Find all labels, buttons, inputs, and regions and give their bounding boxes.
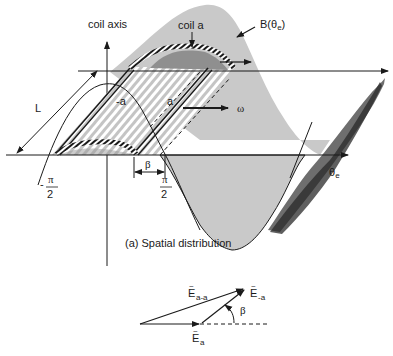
svg-text:-a: -a	[258, 293, 266, 302]
beta-arc	[225, 305, 234, 323]
svg-text:2: 2	[47, 188, 53, 200]
theta-axis-label: θe	[329, 166, 340, 180]
omega-label: ω	[237, 102, 244, 114]
coil-a-label: coil a	[178, 19, 205, 31]
side-neg-a-label: -a	[116, 95, 127, 107]
flux-density-label: B(θe)	[260, 18, 285, 32]
neg-pi-over-2-label: - π 2	[40, 173, 58, 200]
svg-text:E: E	[192, 332, 199, 344]
e-a-label: ~ E a	[192, 327, 205, 347]
side-a-label: a	[167, 95, 174, 107]
length-label: L	[35, 102, 41, 114]
caption: (a) Spatial distribution	[125, 237, 231, 249]
coil-axis-label: coil axis	[88, 18, 128, 30]
spatial-distribution-diagram: coil axis coil a B(θe) L -a a ω β θe - π…	[0, 0, 393, 356]
beta-label: β	[145, 158, 151, 170]
svg-text:E: E	[250, 287, 257, 299]
svg-text:a: a	[200, 338, 205, 347]
svg-text:2: 2	[161, 188, 167, 200]
phasor-beta-label: β	[240, 304, 246, 316]
svg-text:a-a: a-a	[196, 293, 208, 302]
e-a-minus-a-label: ~ E a-a	[188, 282, 208, 302]
svg-text:E: E	[188, 287, 195, 299]
e-neg-a-label: ~ E -a	[250, 282, 266, 302]
svg-text:π: π	[162, 173, 168, 185]
pi-over-2-label: π 2	[160, 173, 172, 200]
svg-text:-: -	[40, 178, 44, 190]
svg-text:π: π	[48, 173, 54, 185]
phasor-e-neg-a	[202, 290, 244, 323]
